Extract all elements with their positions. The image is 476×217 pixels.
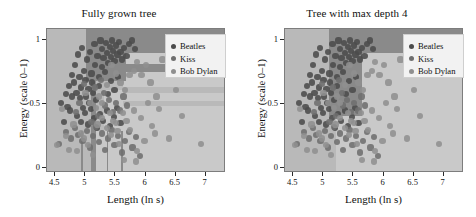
x-tick-label: 6.5 [161, 177, 189, 187]
legend-swatch-dot-icon [171, 44, 176, 49]
x-tick-label: 7 [191, 177, 219, 187]
legend-item-beatles[interactable]: Beatles [171, 42, 205, 51]
data-point [90, 152, 96, 158]
data-point [119, 149, 125, 155]
legend-swatch-dot-icon [171, 69, 176, 74]
data-point [417, 113, 423, 119]
panel-title: Fully grown tree [0, 7, 238, 19]
data-point [316, 119, 322, 125]
y-tick [280, 103, 284, 104]
data-point [61, 119, 67, 125]
data-point [313, 51, 319, 57]
data-point [354, 141, 360, 147]
x-tick [54, 172, 55, 176]
legend-item-beatles[interactable]: Beatles [409, 42, 443, 51]
data-point [141, 138, 147, 144]
data-point [149, 123, 155, 129]
y-tick-label: 0 [257, 162, 278, 172]
data-point [123, 118, 129, 124]
data-point [404, 135, 410, 141]
data-point [322, 128, 328, 134]
data-point [379, 138, 385, 144]
legend-swatch-dot-icon [171, 56, 176, 61]
data-point [307, 72, 313, 78]
data-point [101, 90, 107, 96]
data-point [110, 118, 116, 124]
data-point [387, 123, 393, 129]
y-tick [42, 103, 46, 104]
data-point [70, 121, 76, 127]
panel-tree-max-depth-4: Tree with max depth 4 Energy (scale 0–1)… [238, 0, 476, 217]
legend-item-bob-dylan[interactable]: Bob Dylan [171, 67, 217, 76]
data-point [365, 127, 371, 133]
data-point [111, 87, 117, 93]
data-point [120, 93, 126, 99]
data-point [355, 79, 361, 85]
data-point [358, 110, 364, 116]
data-point [351, 70, 357, 76]
data-point [92, 62, 98, 68]
data-point [352, 128, 358, 134]
data-point [345, 110, 351, 116]
y-tick-label: 0.5 [257, 98, 278, 108]
data-point [76, 100, 82, 106]
data-point [73, 109, 79, 115]
data-point [153, 93, 159, 99]
data-point [381, 62, 387, 68]
x-tick-label: 6.5 [399, 177, 427, 187]
x-tick [352, 172, 353, 176]
data-point [113, 70, 119, 76]
data-point [332, 121, 338, 127]
data-point [67, 107, 73, 113]
data-point [78, 119, 84, 125]
data-point [371, 158, 377, 164]
legend-item-bob-dylan[interactable]: Bob Dylan [409, 67, 455, 76]
data-point [69, 72, 75, 78]
data-point [340, 147, 346, 153]
legend[interactable]: BeatlesKissBob Dylan [165, 34, 226, 78]
data-point [369, 107, 375, 113]
data-point [166, 135, 172, 141]
data-point [391, 93, 397, 99]
data-point [94, 121, 100, 127]
data-point [147, 79, 153, 85]
data-point [114, 128, 120, 134]
x-tick-label: 6 [369, 177, 397, 187]
data-point [330, 62, 336, 68]
data-point [179, 113, 185, 119]
data-point [361, 53, 367, 59]
y-tick [280, 39, 284, 40]
data-point [326, 70, 332, 76]
legend-item-kiss[interactable]: Kiss [171, 55, 195, 64]
x-tick [114, 172, 115, 176]
legend[interactable]: BeatlesKissBob Dylan [403, 34, 464, 78]
data-point [346, 62, 352, 68]
data-point [362, 102, 368, 108]
data-point [296, 100, 302, 106]
data-point [314, 100, 320, 106]
data-point [71, 79, 77, 85]
data-point [323, 142, 329, 148]
panel-fully-grown-tree: Fully grown tree Energy (scale 0–1) Leng… [0, 0, 238, 217]
data-point [99, 130, 105, 136]
panel-title: Tree with max depth 4 [238, 7, 476, 19]
legend-item-kiss[interactable]: Kiss [409, 55, 433, 64]
data-point [436, 141, 442, 147]
x-tick [84, 172, 85, 176]
x-tick-label: 5.5 [100, 177, 128, 187]
x-tick [443, 172, 444, 176]
data-point [127, 127, 133, 133]
data-point [385, 79, 391, 85]
x-axis-label: Length (ln s) [47, 193, 224, 205]
data-point [339, 90, 345, 96]
x-tick-label: 5 [70, 177, 98, 187]
legend-swatch-dot-icon [409, 44, 414, 49]
x-tick [383, 172, 384, 176]
data-point [108, 62, 114, 68]
data-point [311, 109, 317, 115]
data-point [138, 72, 144, 78]
data-point [367, 37, 373, 43]
x-tick-label: 5.5 [338, 177, 366, 187]
x-tick [292, 172, 293, 176]
x-tick-label: 5 [308, 177, 336, 187]
